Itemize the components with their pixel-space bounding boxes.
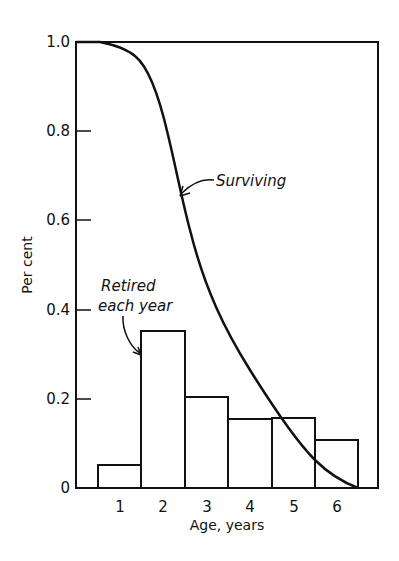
chart: 0 0.2 0.4 0.6 0.8 1.0 Per cent 1 2 3 4 5…	[0, 0, 399, 561]
x-tick-label: 6	[332, 498, 342, 516]
annotation-retired-label-line1: Retired	[101, 277, 156, 295]
y-tick-label: 0	[60, 479, 70, 497]
y-tick-label: 0.8	[46, 122, 70, 140]
y-axis: 0 0.2 0.4 0.6 0.8 1.0 Per cent	[19, 33, 91, 497]
x-tick-label: 2	[158, 498, 168, 516]
y-tick-label: 0.6	[46, 211, 70, 229]
bar-year-4	[228, 419, 272, 488]
x-tick-label: 1	[115, 498, 125, 516]
y-tick-label: 0.2	[46, 390, 70, 408]
bar-year-2	[141, 331, 185, 488]
arrow-icon	[182, 180, 214, 193]
y-axis-label: Per cent	[19, 236, 35, 294]
x-tick-label: 4	[245, 498, 255, 516]
y-tick-label: 0.4	[46, 301, 70, 319]
annotation-surviving: Surviving	[180, 172, 286, 196]
x-tick-label: 3	[202, 498, 212, 516]
bar-year-6	[315, 440, 358, 488]
y-tick-label: 1.0	[46, 33, 70, 51]
bar-year-1	[98, 465, 141, 488]
annotation-retired-label-line2: each year	[98, 297, 173, 315]
x-axis: 1 2 3 4 5 6 Age, years	[115, 498, 342, 533]
bar-year-3	[185, 397, 228, 488]
x-tick-label: 5	[289, 498, 299, 516]
annotation-surviving-label: Surviving	[216, 172, 286, 190]
x-axis-label: Age, years	[190, 517, 265, 533]
